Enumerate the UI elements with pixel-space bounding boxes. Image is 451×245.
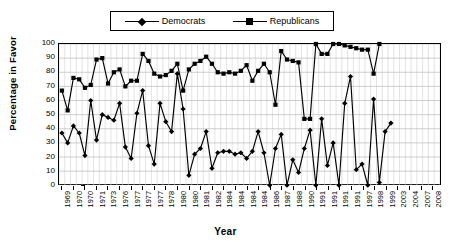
x-tick-label: 1987 bbox=[284, 191, 291, 207]
republicans-marker bbox=[268, 70, 272, 74]
x-tick-label: 1984 bbox=[226, 191, 233, 207]
republicans-marker bbox=[354, 46, 358, 50]
x-tick-label: 2008 bbox=[435, 191, 442, 207]
democrats-marker bbox=[140, 88, 145, 93]
x-tick-mark bbox=[131, 186, 132, 190]
republicans-marker bbox=[169, 69, 173, 73]
x-tick-mark bbox=[119, 186, 120, 190]
republicans-marker bbox=[60, 89, 64, 93]
x-tick-label: 1991 bbox=[342, 191, 349, 207]
democrats-marker bbox=[227, 149, 232, 154]
x-tick-label: 1991 bbox=[331, 191, 338, 207]
y-tick-label: 20 bbox=[46, 153, 55, 161]
y-tick-label: 80 bbox=[46, 67, 55, 75]
democrats-marker bbox=[88, 98, 93, 103]
y-axis-title: Percentage in Favor bbox=[7, 19, 18, 149]
republicans-marker bbox=[158, 74, 162, 78]
democrats-marker bbox=[134, 111, 139, 116]
republicans-marker bbox=[348, 45, 352, 49]
x-tick-label: 1977 bbox=[157, 191, 164, 207]
republicans-marker bbox=[337, 42, 341, 46]
democrats-marker bbox=[273, 146, 278, 151]
x-tick-mark bbox=[107, 186, 108, 190]
democrats-marker bbox=[152, 161, 157, 166]
democrats-marker bbox=[302, 146, 307, 151]
republicans-marker bbox=[164, 73, 168, 77]
x-tick-label: 1986 bbox=[273, 191, 280, 207]
democrats-marker bbox=[209, 166, 214, 171]
y-tick-label: 90 bbox=[46, 53, 55, 61]
x-tick-mark bbox=[409, 186, 410, 190]
democrats-marker bbox=[296, 170, 301, 175]
x-tick-mark bbox=[212, 186, 213, 190]
x-tick-label: 1984 bbox=[250, 191, 257, 207]
diamond-marker-icon bbox=[125, 17, 159, 26]
y-tick-label: 70 bbox=[46, 82, 55, 90]
democrats-marker bbox=[261, 150, 266, 155]
democrats-marker bbox=[111, 118, 116, 123]
x-tick-label: 2004 bbox=[412, 191, 419, 207]
x-tick-mark bbox=[96, 186, 97, 190]
legend-item-democrats: Democrats bbox=[125, 17, 206, 26]
republicans-marker bbox=[279, 49, 283, 53]
democrats-marker bbox=[221, 149, 226, 154]
democrats-marker bbox=[331, 140, 336, 145]
republicans-marker bbox=[71, 76, 75, 80]
x-tick-label: 1984 bbox=[261, 191, 268, 207]
x-tick-label: 2003 bbox=[400, 191, 407, 207]
x-tick-mark bbox=[165, 186, 166, 190]
x-tick-label: 1980 bbox=[192, 191, 199, 207]
chart-legend: Democrats Republicans bbox=[110, 11, 334, 31]
republicans-marker bbox=[129, 79, 133, 83]
x-tick-mark bbox=[258, 186, 259, 190]
legend-item-republicans: Republicans bbox=[233, 17, 320, 26]
republicans-marker bbox=[256, 69, 260, 73]
x-tick-mark bbox=[270, 186, 271, 190]
democrats-marker bbox=[186, 173, 191, 178]
x-tick-mark bbox=[386, 186, 387, 190]
x-tick-mark bbox=[281, 186, 282, 190]
x-axis-title: Year bbox=[0, 226, 451, 237]
democrats-marker bbox=[256, 129, 261, 134]
x-tick-mark bbox=[142, 186, 143, 190]
democrats-marker bbox=[157, 101, 162, 106]
republicans-marker bbox=[250, 79, 254, 83]
republicans-marker bbox=[273, 103, 277, 107]
republicans-marker bbox=[308, 117, 312, 121]
x-tick-label: 1997 bbox=[366, 191, 373, 207]
x-tick-mark bbox=[432, 186, 433, 190]
democrats-marker bbox=[65, 140, 70, 145]
republicans-marker bbox=[320, 52, 324, 56]
republicans-marker bbox=[262, 62, 266, 66]
x-tick-mark bbox=[177, 186, 178, 190]
republicans-line bbox=[62, 44, 379, 119]
republicans-marker bbox=[366, 48, 370, 52]
x-tick-mark bbox=[200, 186, 201, 190]
republicans-marker bbox=[112, 70, 116, 74]
chart-container: Democrats Republicans Percentage in Favo… bbox=[0, 0, 451, 245]
democrats-marker bbox=[371, 97, 376, 102]
republicans-marker bbox=[66, 108, 70, 112]
republicans-marker bbox=[210, 62, 214, 66]
x-tick-mark bbox=[223, 186, 224, 190]
democrats-marker bbox=[123, 145, 128, 150]
democrats-marker bbox=[100, 112, 105, 117]
republicans-marker bbox=[181, 89, 185, 93]
republicans-marker bbox=[152, 72, 156, 76]
republicans-marker bbox=[123, 84, 127, 88]
x-tick-mark bbox=[351, 186, 352, 190]
x-tick-label: 1988 bbox=[296, 191, 303, 207]
democrats-marker bbox=[163, 119, 168, 124]
democrats-marker bbox=[279, 132, 284, 137]
x-tick-label: 1970 bbox=[87, 191, 94, 207]
republicans-marker bbox=[291, 59, 295, 63]
democrats-marker bbox=[94, 137, 99, 142]
x-tick-label: 1998 bbox=[377, 191, 384, 207]
y-tick-label: 0 bbox=[51, 181, 55, 189]
democrats-marker bbox=[342, 101, 347, 106]
democrats-marker bbox=[204, 129, 209, 134]
republicans-marker bbox=[377, 42, 381, 46]
republicans-marker bbox=[302, 117, 306, 121]
x-tick-mark bbox=[247, 186, 248, 190]
x-tick-label: 1973 bbox=[110, 191, 117, 207]
